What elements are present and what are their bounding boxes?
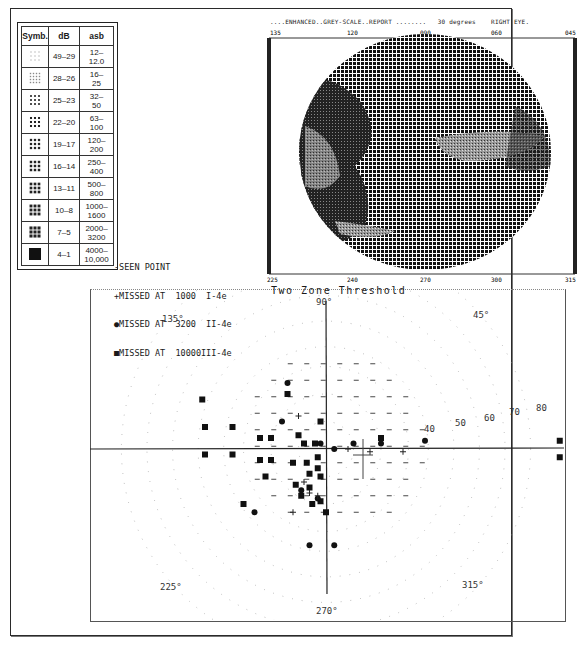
bottom-tick-315: 315 bbox=[565, 276, 576, 282]
header-asb: asb bbox=[80, 27, 114, 46]
header-symbol: Symb. bbox=[22, 27, 49, 46]
sparse-dots-icon bbox=[29, 50, 41, 62]
missed-1000-point bbox=[367, 449, 373, 455]
legend-row: 22–2063– 100 bbox=[22, 112, 114, 134]
medium-grid-icon bbox=[29, 116, 41, 128]
legend-db: 16–14 bbox=[49, 156, 80, 178]
missed-3200-point bbox=[331, 446, 337, 452]
legend-asb: 1000– 1600 bbox=[80, 200, 114, 222]
missed-10000-point bbox=[290, 460, 296, 466]
legend-db: 19–17 bbox=[49, 134, 80, 156]
missed-10000-point bbox=[285, 391, 291, 397]
legend-symbol bbox=[22, 134, 49, 156]
ring-label-40: 40 bbox=[424, 424, 435, 434]
missed-3200-point bbox=[318, 441, 324, 447]
vertical-meridian bbox=[326, 301, 327, 594]
top-tick-045: 045 bbox=[565, 29, 576, 36]
polar-plot-svg: 90° 45° 135° 225° 270° 315° 40 50 60 70 … bbox=[90, 289, 564, 620]
missed-1000-point bbox=[400, 449, 406, 455]
ring-label-70: 70 bbox=[509, 407, 520, 417]
ring-label-50: 50 bbox=[455, 418, 466, 428]
missed-1000-point bbox=[296, 413, 302, 419]
legend-asb: 2000– 3200 bbox=[80, 222, 114, 244]
missed-3200-point bbox=[351, 441, 357, 447]
legend-symbol bbox=[22, 68, 49, 90]
legend-db: 22–20 bbox=[49, 112, 80, 134]
legend-row: 16–14250– 400 bbox=[22, 156, 114, 178]
missed-10000-point bbox=[307, 485, 313, 491]
top-tick-135: 135 bbox=[270, 29, 281, 36]
legend-db: 28–26 bbox=[49, 68, 80, 90]
missed-10000-point bbox=[318, 474, 324, 480]
legend-row: 4–14000– 10,000 bbox=[22, 244, 114, 266]
dense-squares-icon bbox=[29, 138, 41, 150]
legend-symbol bbox=[22, 200, 49, 222]
ring-label-60: 60 bbox=[484, 413, 495, 423]
crosshatch-block-icon bbox=[29, 226, 41, 238]
bottom-tick-270: 270 bbox=[420, 276, 431, 282]
legend-db: 10–8 bbox=[49, 200, 80, 222]
missed-3200-point bbox=[252, 509, 258, 515]
missed-10000-point bbox=[268, 435, 274, 441]
solid-squares-icon bbox=[29, 204, 41, 216]
legend-symbol bbox=[22, 244, 49, 266]
small-grid-icon bbox=[29, 94, 41, 106]
missed-1000-point bbox=[345, 446, 351, 452]
legend-asb: 500– 800 bbox=[80, 178, 114, 200]
legend-asb: 12– 12.0 bbox=[80, 46, 114, 68]
legend-db: 4–1 bbox=[49, 244, 80, 266]
legend-row: 10–81000– 1600 bbox=[22, 200, 114, 222]
legend-seen-point: -SEEN POINT bbox=[114, 263, 232, 273]
label-270: 270° bbox=[316, 606, 338, 616]
missed-10000-point bbox=[241, 501, 247, 507]
missed-10000-point bbox=[263, 474, 269, 480]
heavy-squares-icon bbox=[29, 182, 41, 194]
missed-10000-point bbox=[315, 454, 321, 460]
missed-10000-point bbox=[309, 501, 315, 507]
header-db: dB bbox=[49, 27, 80, 46]
missed-10000-point bbox=[323, 509, 329, 515]
legend-asb: 32– 50 bbox=[80, 90, 114, 112]
legend-asb: 250– 400 bbox=[80, 156, 114, 178]
legend-symbol bbox=[22, 90, 49, 112]
missed-10000-point bbox=[202, 424, 208, 430]
missed-10000-point bbox=[557, 438, 563, 444]
black-block-icon bbox=[29, 248, 41, 260]
missed-3200-point bbox=[279, 419, 285, 425]
legend-db: 13–11 bbox=[49, 178, 80, 200]
missed-10000-point bbox=[557, 454, 563, 460]
grey-scale-chart: 135 120 090 060 045 225 240 270 300 315 bbox=[265, 26, 580, 282]
missed-10000-point bbox=[230, 424, 236, 430]
missed-10000-point bbox=[202, 452, 208, 458]
missed-3200-point bbox=[285, 380, 291, 386]
grey-scale-svg: 135 120 090 060 045 225 240 270 300 315 bbox=[265, 26, 580, 282]
missed-10000-point bbox=[315, 465, 321, 471]
missed-10000-point bbox=[296, 432, 302, 438]
legend-row: 25–2332– 50 bbox=[22, 90, 114, 112]
top-tick-120: 120 bbox=[347, 29, 358, 36]
top-tick-060: 060 bbox=[491, 29, 502, 36]
missed-3200-point bbox=[422, 438, 428, 444]
bottom-tick-240: 240 bbox=[347, 276, 358, 282]
label-90: 90° bbox=[316, 297, 332, 307]
legend-db: 7–5 bbox=[49, 222, 80, 244]
missed-3200-point bbox=[378, 441, 384, 447]
legend-asb: 120– 200 bbox=[80, 134, 114, 156]
legend-row: 19–17120– 200 bbox=[22, 134, 114, 156]
legend-symbol bbox=[22, 46, 49, 68]
legend-symbol bbox=[22, 222, 49, 244]
legend-symbol bbox=[22, 156, 49, 178]
legend-asb: 63– 100 bbox=[80, 112, 114, 134]
label-45: 45° bbox=[473, 310, 489, 320]
missed-10000-point bbox=[199, 397, 205, 403]
missed-10000-point bbox=[293, 482, 299, 488]
grey-scale-legend: Symb. dB asb 49–2912– 12.028–2616– 2525–… bbox=[17, 22, 118, 270]
missed-10000-point bbox=[257, 457, 263, 463]
missed-10000-point bbox=[301, 441, 307, 447]
legend-asb: 16– 25 bbox=[80, 68, 114, 90]
visual-field-map bbox=[265, 26, 580, 282]
label-225: 225° bbox=[160, 582, 182, 592]
missed-10000-point bbox=[304, 460, 310, 466]
fine-dots-icon bbox=[29, 72, 41, 84]
missed-10000-point bbox=[230, 452, 236, 458]
